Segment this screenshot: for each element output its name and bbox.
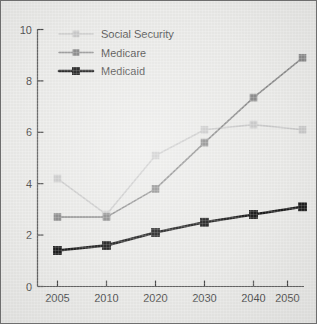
legend-swatch-marker [73,49,80,56]
series-social-security [54,121,306,218]
data-point-marker [201,126,208,133]
y-axis-tick-label: 6 [26,126,32,138]
data-point-marker [250,121,257,128]
x-axis-tick-label: 2020 [143,292,167,304]
y-axis-tick-label: 4 [26,178,32,190]
legend-swatch-marker [73,31,80,38]
data-point-marker [103,241,111,249]
data-point-marker [299,203,307,211]
y-axis-ticks: 0 2 4 6 8 10 [20,24,44,293]
x-axis-tick-label: 2005 [45,292,69,304]
legend-item-social-security[interactable]: Social Security [59,28,174,40]
data-point-marker [250,211,258,219]
data-point-marker [54,175,61,182]
chart-figure: 0 2 4 6 8 10 2005 2010 2020 2030 2040 20… [0,0,317,324]
data-point-marker [201,218,209,226]
data-point-marker [299,54,306,61]
chart-legend: Social SecurityMedicareMedicaid [59,28,174,77]
series-medicaid [54,203,307,255]
x-axis-tick-label: 2010 [94,292,118,304]
series-line [58,125,303,215]
series-medicare [54,54,306,220]
legend-swatch-marker [72,67,80,75]
data-series-layer [54,54,307,254]
y-axis-tick-label: 10 [20,24,32,36]
line-chart: 0 2 4 6 8 10 2005 2010 2020 2030 2040 20… [1,1,317,324]
x-axis-tick-label: 2040 [241,292,265,304]
legend-item-medicaid[interactable]: Medicaid [59,65,145,77]
series-line [58,207,303,251]
data-point-marker [152,152,159,159]
x-axis-ticks: 2005 2010 2020 2030 2040 2050 [45,281,299,305]
legend-item-medicare[interactable]: Medicare [59,47,146,59]
x-axis-tick-label: 2030 [192,292,216,304]
data-point-marker [250,94,257,101]
y-axis-tick-label: 8 [26,75,32,87]
legend-label: Social Security [101,28,174,40]
y-axis-tick-label: 2 [26,229,32,241]
series-line [58,58,303,217]
data-point-marker [152,185,159,192]
legend-label: Medicare [101,47,146,59]
y-axis-tick-label: 0 [26,281,32,293]
x-axis-tick-label: 2050 [275,292,299,304]
data-point-marker [201,139,208,146]
data-point-marker [54,247,62,255]
legend-label: Medicaid [101,65,145,77]
data-point-marker [152,229,160,237]
data-point-marker [103,214,110,221]
data-point-marker [54,214,61,221]
data-point-marker [299,126,306,133]
